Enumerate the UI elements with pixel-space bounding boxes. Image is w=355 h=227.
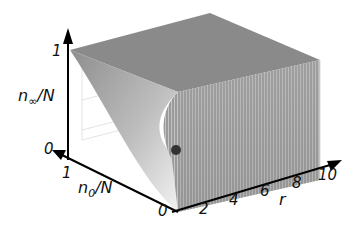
x-tick-4: 4 [229,193,239,208]
x-tick-8: 8 [292,176,302,191]
y-axis-name: n [78,178,88,197]
surface-plot [0,0,355,227]
y-tick-0: 0 [158,204,168,219]
x-tick-2: 2 [199,202,209,217]
z-axis-name: n [18,86,28,105]
z-axis-over: /N [37,86,54,105]
marker-dot [171,145,181,155]
y-tick-1: 1 [62,166,72,181]
z-tick-1: 1 [52,44,62,59]
y-axis-over: /N [95,178,112,197]
x-tick-10: 10 [318,168,337,183]
z-axis-subscript: ∞ [28,95,37,108]
z-axis-label: n∞/N [18,88,55,107]
y-axis-label: n0/N [78,180,113,199]
x-tick-6: 6 [260,184,270,199]
x-axis-label: r [279,192,286,208]
z-tick-0: 0 [44,142,54,157]
z-axis-arrow [63,28,73,44]
